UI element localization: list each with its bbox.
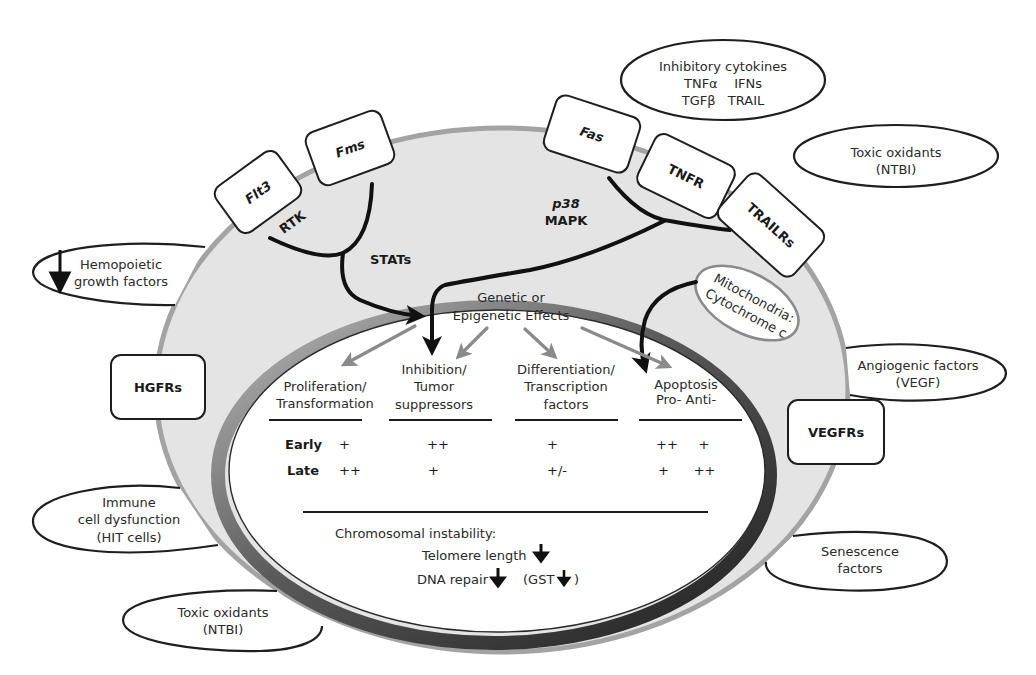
angiogenic-factors[interactable]: Angiogenic factors (VEGF) (846, 344, 1006, 400)
svg-text:Genetic or: Genetic or (477, 290, 545, 305)
svg-text:Senescence: Senescence (821, 544, 899, 559)
p38-label: p38 (551, 196, 579, 211)
svg-text:cell dysfunction: cell dysfunction (78, 512, 180, 527)
receptor-hgfrs[interactable]: HGFRs (111, 355, 205, 419)
toxic-oxidants-top[interactable]: Toxic oxidants (NTBI) (794, 125, 998, 187)
svg-text:+: + (428, 463, 439, 478)
svg-text:Pro- Anti-: Pro- Anti- (656, 392, 717, 407)
hemopoietic-growth-factors[interactable]: Hemopoietic growth factors (33, 244, 205, 305)
svg-text:++: ++ (339, 463, 361, 478)
svg-text:(NTBI): (NTBI) (203, 622, 244, 637)
svg-text:(GST: (GST (523, 572, 554, 587)
svg-text:TGFβ TRAIL: TGFβ TRAIL (681, 93, 765, 108)
svg-text:Transcription: Transcription (523, 379, 608, 394)
svg-text:+/-: +/- (547, 463, 567, 478)
svg-text:Proliferation/: Proliferation/ (283, 379, 367, 394)
svg-text:growth factors: growth factors (74, 274, 168, 289)
apoptosis-early: ++ + (656, 437, 709, 452)
svg-text:TNFα IFNs: TNFα IFNs (683, 76, 762, 91)
svg-text:DNA repair: DNA repair (417, 572, 489, 587)
svg-text:Inhibition/: Inhibition/ (401, 362, 467, 377)
svg-text:Immune: Immune (102, 495, 156, 510)
svg-text:Hemopoietic: Hemopoietic (80, 257, 162, 272)
stats-label: STATs (370, 252, 411, 267)
svg-text:Epigenetic Effects: Epigenetic Effects (453, 308, 570, 323)
late-label: Late (287, 463, 319, 478)
apoptosis-late: + ++ (658, 463, 715, 478)
svg-text:factors: factors (544, 397, 589, 412)
leukemia-cell-signaling-diagram: Flt3 Fms Fas TNFR TRAILRs HGFRs VEGFRs R… (0, 0, 1036, 675)
inhibitory-cytokines[interactable]: Inhibitory cytokines TNFα IFNs TGFβ TRAI… (621, 40, 825, 120)
svg-text:Chromosomal instability:: Chromosomal instability: (335, 526, 496, 541)
svg-text:Apoptosis: Apoptosis (654, 377, 718, 392)
svg-text:(VEGF): (VEGF) (896, 375, 941, 390)
svg-text:+: + (547, 437, 558, 452)
svg-text:factors: factors (838, 561, 883, 576)
svg-text:(NTBI): (NTBI) (876, 162, 917, 177)
early-label: Early (285, 437, 323, 452)
svg-text:++: ++ (427, 437, 449, 452)
svg-text:(HIT cells): (HIT cells) (97, 530, 162, 545)
senescence-factors[interactable]: Senescence factors (766, 532, 947, 591)
svg-text:): ) (574, 572, 579, 587)
receptor-hgfrs-label: HGFRs (134, 380, 182, 395)
svg-text:Toxic oxidants: Toxic oxidants (849, 145, 941, 160)
svg-text:Tumor: Tumor (413, 379, 455, 394)
svg-text:Differentiation/: Differentiation/ (517, 362, 615, 377)
svg-text:suppressors: suppressors (395, 397, 473, 412)
svg-text:Inhibitory cytokines: Inhibitory cytokines (659, 59, 787, 74)
svg-text:Toxic oxidants: Toxic oxidants (176, 605, 268, 620)
svg-text:Angiogenic factors: Angiogenic factors (857, 358, 978, 373)
svg-text:+: + (339, 437, 350, 452)
svg-text:Telomere length: Telomere length (421, 548, 527, 563)
receptor-vegfrs[interactable]: VEGFRs (788, 400, 884, 464)
svg-text:Transformation: Transformation (275, 396, 374, 411)
receptor-vegfrs-label: VEGFRs (808, 425, 865, 440)
mapk-label: MAPK (545, 213, 589, 228)
